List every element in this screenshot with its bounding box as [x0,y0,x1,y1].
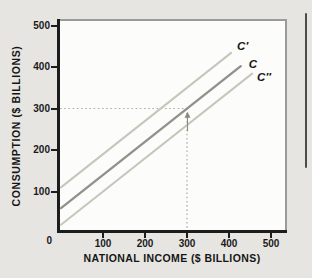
y-tick-mark [51,66,57,68]
y-tick-mark [51,191,57,193]
y-tick-label: 200 [24,145,50,155]
curve-label-c-double-prime: C″ [257,72,271,83]
x-tick-label: 100 [90,239,116,249]
x-axis-line [57,230,287,233]
x-axis-title: NATIONAL INCOME ($ BILLIONS) [57,252,287,264]
x-tick-label: 500 [258,239,284,249]
x-tick-label: 200 [132,239,158,249]
y-tick-label: 300 [24,104,50,114]
y-tick-mark [51,25,57,27]
y-tick-label: 100 [24,187,50,197]
y-axis-title: CONSUMPTION ($ BILLIONS) [10,31,22,221]
y-tick-mark [51,108,57,110]
x-tick-label: 400 [216,239,242,249]
x-tick-label: 300 [174,239,200,249]
y-axis-line [57,19,60,233]
page-edge-rule [305,13,307,168]
y-tick-label: 400 [24,62,50,72]
origin-tick-label: 0 [38,235,52,246]
curve-label-c-prime: C′ [237,41,248,52]
y-tick-label: 500 [24,21,50,31]
figure-consumption-schedule: 100200300400500100200300400500 C′CC″ 0 N… [0,0,312,278]
y-tick-mark [51,149,57,151]
plot-area [57,19,287,232]
curve-label-c: C [249,59,257,70]
